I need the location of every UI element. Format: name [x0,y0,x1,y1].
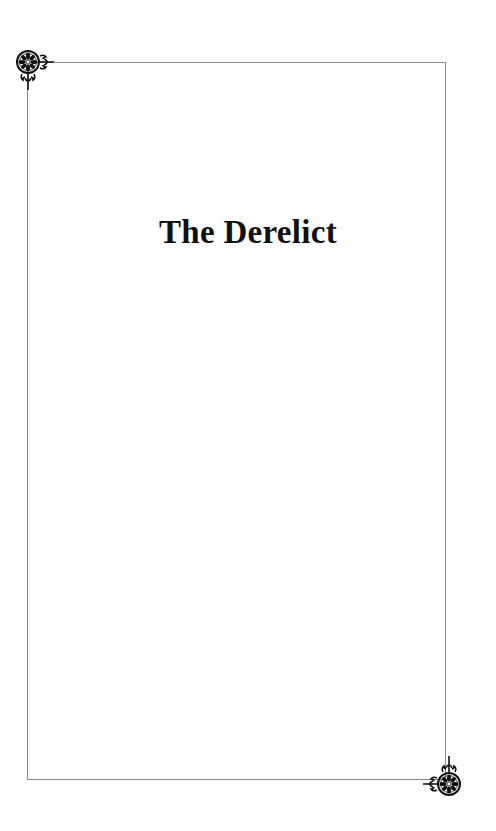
rosette-corner-ornament-icon [8,42,56,90]
page-title: The Derelict [0,214,496,251]
book-page: The Derelict [0,0,496,831]
rosette-corner-ornament-icon [421,756,469,804]
page-border-frame [27,62,446,780]
